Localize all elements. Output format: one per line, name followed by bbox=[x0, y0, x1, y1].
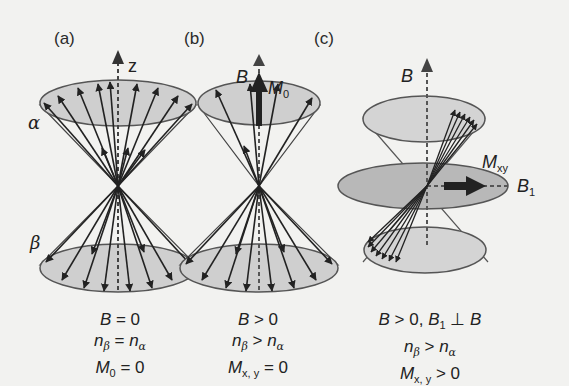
caption-var: B bbox=[428, 310, 439, 329]
caption-var: M bbox=[228, 358, 242, 377]
caption-a-line3: M0 = 0 bbox=[50, 357, 190, 384]
m0-var: M bbox=[268, 78, 283, 98]
b-field-label: B bbox=[236, 67, 248, 88]
b1-var: B bbox=[517, 176, 529, 196]
caption-var: B bbox=[379, 310, 390, 329]
c-b-axis-arrow-icon bbox=[421, 58, 433, 72]
b-axis-arrow-icon bbox=[253, 54, 265, 66]
caption-var: B bbox=[470, 310, 481, 329]
caption-var: n bbox=[404, 337, 413, 356]
caption-rel: > 0 bbox=[249, 310, 278, 329]
panel-c-upper-cone-top bbox=[363, 96, 485, 142]
panel-b-label: (b) bbox=[184, 29, 205, 49]
z-axis-label: z bbox=[128, 56, 137, 77]
b1-sub: 1 bbox=[529, 186, 535, 198]
caption-sub: α bbox=[449, 346, 456, 359]
caption-rel: = 0 bbox=[111, 310, 140, 329]
caption-var: M bbox=[95, 358, 109, 377]
caption-rel: > bbox=[420, 337, 439, 356]
caption-var: n bbox=[267, 331, 276, 350]
panel-b-graphic bbox=[180, 54, 338, 292]
caption-b-line2: nβ > nα bbox=[188, 330, 328, 357]
beta-state-label: β bbox=[30, 232, 40, 253]
caption-sub: x, y bbox=[414, 373, 431, 385]
caption-rel: > 0, bbox=[390, 310, 428, 329]
caption-var: M bbox=[400, 364, 414, 383]
caption-rel: = bbox=[110, 331, 129, 350]
caption-c-line1: B > 0, B1 ⊥ B bbox=[355, 309, 505, 336]
caption-rel: > bbox=[248, 331, 267, 350]
caption-a-line2: nβ = nα bbox=[50, 330, 190, 357]
caption-rel: = 0 bbox=[259, 358, 288, 377]
panel-c-caption: B > 0, B1 ⊥ B nβ > nα Mx, y > 0 bbox=[355, 309, 505, 386]
m0-sub: 0 bbox=[283, 88, 289, 100]
alpha-state-label: α bbox=[28, 112, 40, 133]
panel-c-lower-cone-base bbox=[364, 227, 486, 273]
mxy-vector-label: Mxy bbox=[482, 152, 508, 174]
caption-a-line1: B = 0 bbox=[50, 309, 190, 330]
caption-var: B bbox=[100, 310, 111, 329]
panel-a-caption: B = 0 nβ = nα M0 = 0 bbox=[50, 309, 190, 384]
caption-rel: ⊥ bbox=[446, 310, 470, 329]
caption-var: n bbox=[129, 331, 138, 350]
caption-c-line2: nβ > nα bbox=[355, 336, 505, 363]
caption-var: n bbox=[439, 337, 448, 356]
b1-field-label: B1 bbox=[517, 176, 535, 198]
m0-vector-label: M0 bbox=[268, 78, 289, 100]
caption-sub: α bbox=[277, 340, 284, 353]
caption-rel: = 0 bbox=[116, 358, 145, 377]
caption-var: B bbox=[238, 310, 249, 329]
mxy-sub: xy bbox=[497, 162, 508, 174]
caption-c-line3: Mx, y > 0 bbox=[355, 363, 505, 386]
c-b-field-label: B bbox=[401, 66, 413, 87]
z-axis-arrow-icon bbox=[112, 50, 124, 64]
panel-b-caption: B > 0 nβ > nα Mx, y = 0 bbox=[188, 309, 328, 384]
caption-sub: α bbox=[139, 340, 146, 353]
caption-sub: x, y bbox=[242, 367, 259, 379]
mxy-var: M bbox=[482, 152, 497, 172]
caption-var: n bbox=[232, 331, 241, 350]
panel-a-label: (a) bbox=[54, 29, 75, 49]
caption-var: n bbox=[94, 331, 103, 350]
panel-a-graphic bbox=[40, 50, 196, 292]
caption-b-line1: B > 0 bbox=[188, 309, 328, 330]
panel-c-label: (c) bbox=[314, 29, 334, 49]
caption-rel: > 0 bbox=[431, 364, 460, 383]
caption-b-line3: Mx, y = 0 bbox=[188, 357, 328, 384]
